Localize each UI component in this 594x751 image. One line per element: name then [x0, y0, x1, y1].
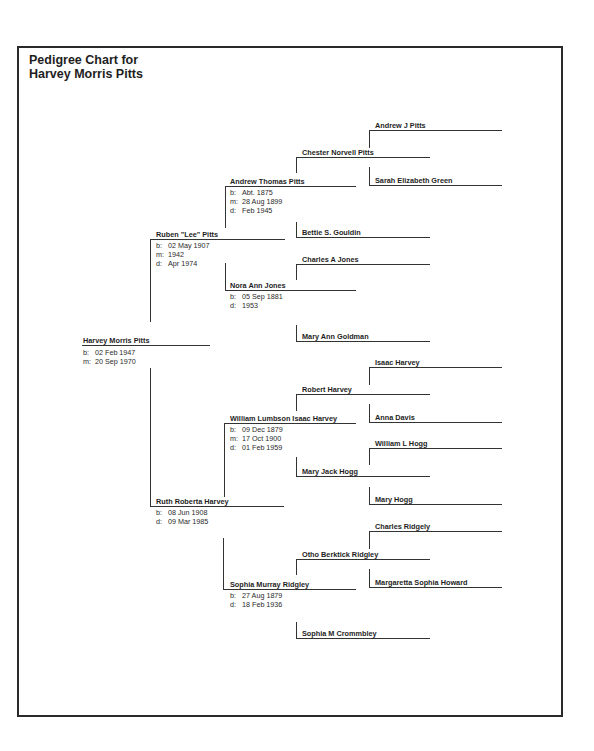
person-facts: b:09 Dec 1879 m:17 Oct 1900 d:01 Feb 195… — [230, 425, 283, 453]
person-line — [369, 531, 502, 532]
connector-line — [223, 538, 224, 589]
title-line-2: Harvey Morris Pitts — [29, 67, 143, 81]
person-facts: b:Abt. 1875 m:28 Aug 1899 d:Feb 1945 — [230, 188, 282, 216]
person-line — [225, 186, 356, 187]
person-facts: b:05 Sep 1881 d:1953 — [230, 292, 283, 310]
person-name-andrew-thomas-pitts[interactable]: Andrew Thomas Pitts — [230, 177, 305, 186]
connector-line — [296, 264, 297, 280]
connector-line — [296, 222, 297, 237]
person-name-harvey-morris-pitts[interactable]: Harvey Morris Pitts — [83, 336, 150, 345]
person-facts: b:27 Aug 1879 d:18 Feb 1936 — [230, 591, 282, 609]
person-line — [150, 506, 284, 507]
title-line-1: Pedigree Chart for — [29, 53, 143, 67]
connector-line — [369, 130, 370, 148]
person-name-isaac-harvey[interactable]: Isaac Harvey — [375, 358, 420, 367]
connector-line — [150, 368, 151, 506]
connector-line — [296, 457, 297, 476]
person-line — [296, 264, 430, 265]
person-name-anna-davis[interactable]: Anna Davis — [375, 413, 415, 422]
connector-line — [296, 157, 297, 173]
person-name-william-l-hogg[interactable]: William L Hogg — [375, 439, 428, 448]
person-name-robert-harvey[interactable]: Robert Harvey — [302, 385, 352, 394]
connector-line — [225, 263, 226, 290]
connector-line — [150, 239, 151, 322]
person-line — [225, 290, 356, 291]
person-name-andrew-j-pitts[interactable]: Andrew J Pitts — [375, 121, 426, 130]
person-line — [150, 239, 285, 240]
connector-line — [369, 367, 370, 385]
person-line — [296, 559, 430, 560]
person-facts: b:08 Jun 1908 d:09 Mar 1985 — [156, 508, 208, 526]
person-name-william-lumbson-isaac-harvey[interactable]: William Lumbson Isaac Harvey — [230, 414, 337, 423]
person-line — [296, 638, 430, 639]
person-name-mary-ann-goldman[interactable]: Mary Ann Goldman — [302, 332, 369, 341]
person-name-sophia-m-crommbley[interactable]: Sophia M Crommbley — [302, 629, 377, 638]
person-name-margaretta-sophia-howard[interactable]: Margaretta Sophia Howard — [375, 578, 467, 587]
person-line — [369, 504, 502, 505]
person-line — [369, 367, 502, 368]
person-name-sarah-elizabeth-green[interactable]: Sarah Elizabeth Green — [375, 176, 452, 185]
chart-title: Pedigree Chart for Harvey Morris Pitts — [29, 53, 143, 81]
person-facts: b:02 Feb 1947 m:20 Sep 1970 — [83, 348, 136, 366]
person-line — [369, 185, 502, 186]
person-name-chester-norvell-pitts[interactable]: Chester Norvell Pitts — [302, 148, 374, 157]
connector-line — [296, 394, 297, 411]
person-name-ruth-roberta-harvey[interactable]: Ruth Roberta Harvey — [156, 497, 229, 506]
connector-line — [225, 186, 226, 228]
person-name-charles-a-jones[interactable]: Charles A Jones — [302, 255, 359, 264]
page-border — [17, 46, 563, 717]
person-line — [369, 448, 502, 449]
person-line — [296, 157, 430, 158]
person-name-charles-ridgely[interactable]: Charles Ridgely — [375, 522, 430, 531]
person-line — [82, 345, 210, 346]
connector-line — [296, 622, 297, 638]
connector-line — [296, 559, 297, 575]
person-line — [369, 422, 502, 423]
connector-line — [369, 448, 370, 465]
person-name-otho-berktick-ridgley[interactable]: Otho Berktick Ridgley — [302, 550, 378, 559]
connector-line — [369, 531, 370, 549]
person-line — [224, 423, 356, 424]
person-line — [296, 394, 430, 395]
connector-line — [369, 569, 370, 587]
person-name-sophia-murray-ridgley[interactable]: Sophia Murray Ridgley — [230, 580, 309, 589]
person-line — [223, 589, 356, 590]
person-line — [296, 476, 430, 477]
person-name-mary-jack-hogg[interactable]: Mary Jack Hogg — [302, 467, 358, 476]
person-name-nora-ann-jones[interactable]: Nora Ann Jones — [230, 281, 286, 290]
connector-line — [369, 487, 370, 504]
person-line — [296, 237, 430, 238]
person-name-ruben-lee-pitts[interactable]: Ruben "Lee" Pitts — [156, 230, 218, 239]
person-name-mary-hogg[interactable]: Mary Hogg — [375, 495, 413, 504]
connector-line — [296, 325, 297, 341]
connector-line — [224, 423, 225, 497]
person-facts: b:02 May 1907 m:1942 d:Apr 1974 — [156, 241, 210, 269]
person-line — [369, 587, 502, 588]
person-line — [296, 341, 430, 342]
person-name-bettie-s-gouldin[interactable]: Bettie S. Gouldin — [302, 228, 361, 237]
connector-line — [369, 404, 370, 422]
person-line — [369, 130, 502, 131]
connector-line — [369, 167, 370, 185]
